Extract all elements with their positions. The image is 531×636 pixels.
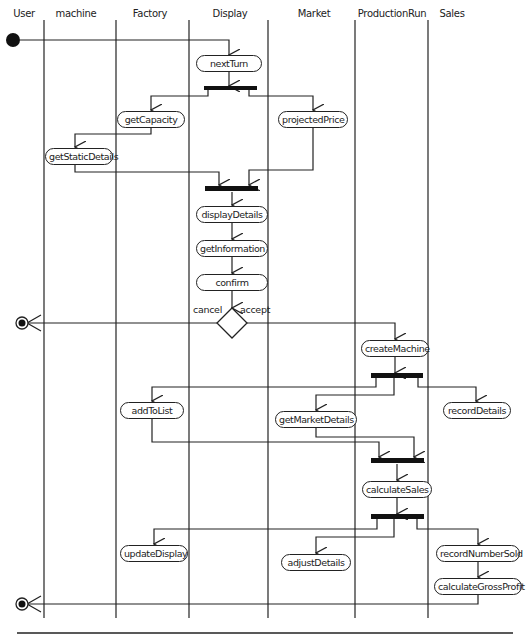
action-create-machine: createMachine: [361, 340, 429, 357]
action-get-information: getInformation: [196, 240, 268, 257]
action-projected-price: projectedPrice: [278, 111, 348, 128]
action-add-to-list: addToList: [120, 402, 184, 419]
action-calculate-gross-profit: calculateGrossProfit: [434, 578, 522, 595]
join-bar: [371, 458, 424, 463]
final-node-cancel: [16, 317, 28, 329]
action-calculate-sales: calculateSales: [362, 481, 432, 498]
action-adjust-details: adjustDetails: [281, 554, 351, 571]
initial-node: [6, 33, 20, 47]
action-update-display: updateDisplay: [120, 545, 188, 562]
action-get-capacity: getCapacity: [117, 111, 185, 128]
fork-bar: [371, 514, 424, 519]
action-next-turn: nextTurn: [196, 55, 262, 72]
guard-cancel: cancel: [193, 304, 222, 315]
fork-bar: [204, 86, 257, 90]
activity-diagram: User machine Factory Display Market Prod…: [0, 0, 531, 636]
guard-accept: accept: [240, 304, 270, 315]
fork-bar: [371, 373, 423, 378]
action-record-details: recordDetails: [443, 402, 511, 419]
action-display-details: displayDetails: [196, 206, 268, 223]
join-bar: [205, 186, 258, 191]
action-get-static-details: getStaticDetails: [45, 148, 113, 165]
final-node-end: [16, 598, 28, 610]
diagram-lines: [0, 0, 531, 636]
action-record-number-sold: recordNumberSold: [436, 545, 520, 562]
action-confirm: confirm: [196, 274, 268, 291]
action-get-market-details: getMarketDetails: [275, 411, 357, 428]
